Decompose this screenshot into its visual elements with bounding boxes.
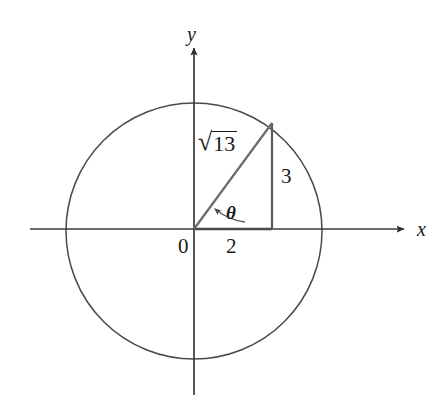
opposite-length-label: 3	[281, 166, 292, 187]
radicand-value: 13	[212, 131, 237, 155]
math-figure: y x 0 2 3 θ √13	[0, 0, 439, 420]
hypotenuse-length-label: √13	[198, 131, 237, 155]
x-axis-label: x	[417, 219, 426, 239]
radical-sign-icon: √	[198, 131, 212, 153]
y-axis-label: y	[187, 24, 196, 44]
adjacent-length-label: 2	[226, 236, 237, 257]
angle-theta-label: θ	[226, 203, 236, 222]
diagram-canvas	[0, 0, 439, 420]
origin-label: 0	[178, 236, 189, 257]
